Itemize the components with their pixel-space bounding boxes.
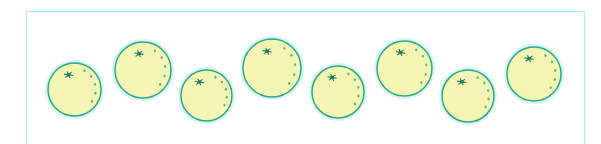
- citrus-fruit-7: [436, 64, 500, 128]
- fruit-body-2: [115, 42, 171, 98]
- fruit-body-7: [442, 70, 494, 122]
- fruit-body-5: [312, 66, 364, 118]
- citrus-fruit-2: [109, 36, 177, 104]
- screenshot-canvas: [0, 0, 601, 144]
- citrus-fruit-6: [371, 35, 438, 102]
- citrus-fruit-8: [501, 41, 567, 107]
- citrus-fruit-3: [175, 64, 238, 127]
- fruit-body-8: [507, 47, 561, 101]
- citrus-fruit-1: [42, 57, 107, 122]
- fruit-body-3: [181, 70, 232, 121]
- fruit-row: [0, 0, 601, 144]
- citrus-fruit-5: [306, 60, 370, 124]
- fruit-body-1: [48, 63, 101, 116]
- citrus-fruit-4: [237, 33, 307, 103]
- fruit-body-4: [243, 39, 301, 97]
- fruit-body-6: [377, 41, 432, 96]
